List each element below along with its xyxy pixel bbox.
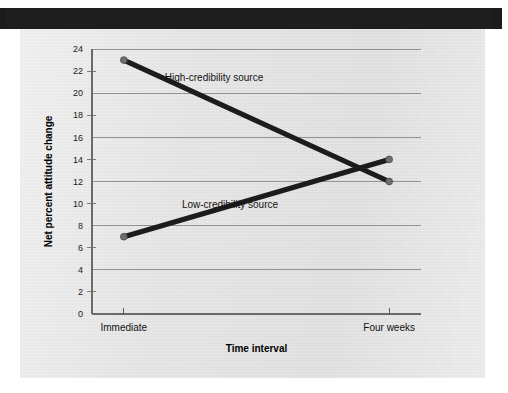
y-tick-label-18: 18 (73, 110, 83, 120)
x-category-label-1: Four weeks (363, 322, 415, 333)
x-category-label-0: Immediate (100, 322, 147, 333)
line-chart: 024681012141618202224 ImmediateFour week… (0, 0, 508, 393)
series-0-marker-1 (386, 178, 393, 185)
gridlines-group (92, 49, 421, 314)
y-tick-label-0: 0 (78, 309, 83, 319)
series-0-marker-0 (120, 57, 127, 64)
series-annotation-0: High-credibility source (165, 72, 264, 83)
y-tick-labels-group: 024681012141618202224 (73, 44, 83, 319)
figure-root: 024681012141618202224 ImmediateFour week… (0, 0, 508, 393)
y-tick-label-6: 6 (78, 243, 83, 253)
y-tick-label-12: 12 (73, 177, 83, 187)
y-tick-label-24: 24 (73, 44, 83, 54)
y-tick-label-2: 2 (78, 287, 83, 297)
y-tick-label-8: 8 (78, 221, 83, 231)
y-tick-label-16: 16 (73, 133, 83, 143)
y-tick-label-10: 10 (73, 199, 83, 209)
series-annotation-1: Low-credibility source (182, 199, 279, 210)
series-group (120, 57, 392, 240)
y-tick-label-14: 14 (73, 155, 83, 165)
series-1-marker-0 (120, 233, 127, 240)
y-tick-label-22: 22 (73, 66, 83, 76)
y-tick-label-20: 20 (73, 88, 83, 98)
x-axis-title: Time interval (226, 343, 288, 354)
series-1-marker-1 (386, 156, 393, 163)
x-category-labels-group: ImmediateFour weeks (100, 322, 415, 333)
y-tick-label-4: 4 (78, 265, 83, 275)
y-axis-title: Net percent attitude change (43, 115, 54, 247)
